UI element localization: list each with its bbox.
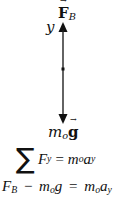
- force-weight-label: mo→g: [48, 123, 79, 141]
- force-arrows: [55, 20, 71, 126]
- axis-label-y: y: [46, 18, 54, 36]
- sum-symbol: ∑: [16, 146, 35, 172]
- vector-arrow-icon: →: [58, 0, 69, 5]
- vector-g: →g: [68, 123, 79, 141]
- equation-newton-second-law: FB − mog = moay: [2, 178, 112, 195]
- vector-arrow-icon: →: [68, 116, 79, 124]
- equation-sum-forces: ∑ Fy = mo ay: [16, 146, 95, 172]
- object-point: [62, 68, 65, 71]
- mass-m: m: [48, 123, 62, 141]
